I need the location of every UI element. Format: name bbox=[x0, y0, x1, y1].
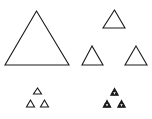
triangle-shape bbox=[107, 104, 110, 107]
triangle-shape bbox=[118, 104, 121, 107]
triangle-shape bbox=[103, 10, 125, 28]
triangle-shape bbox=[113, 89, 116, 92]
triangle-shape bbox=[5, 11, 69, 65]
triangle-shape bbox=[115, 92, 118, 95]
sierpinski-diagram bbox=[0, 0, 152, 119]
stage-0-large-triangle bbox=[5, 11, 69, 65]
triangle-shape bbox=[105, 101, 108, 104]
triangle-shape bbox=[27, 100, 35, 107]
triangle-shape bbox=[122, 104, 125, 107]
triangle-shape bbox=[125, 46, 147, 65]
triangle-shape bbox=[41, 100, 49, 107]
triangle-shape bbox=[82, 46, 103, 65]
triangle-shape bbox=[103, 104, 106, 107]
triangle-shape bbox=[34, 88, 42, 94]
triangle-shape bbox=[120, 101, 123, 104]
stage-2-small-triangles bbox=[27, 88, 49, 107]
triangle-shape bbox=[111, 92, 114, 95]
stage-1-three-triangles bbox=[82, 10, 147, 65]
stage-3-filled-clusters bbox=[103, 89, 125, 108]
